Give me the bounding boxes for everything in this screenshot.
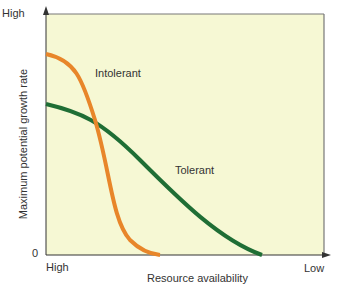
y-axis-arrow-icon: [43, 6, 49, 15]
y-axis-label: Maximum potential growth rate: [17, 59, 29, 229]
label-intolerant: Intolerant: [95, 67, 141, 79]
x-tick-low: Low: [304, 262, 324, 274]
y-tick-zero: 0: [32, 247, 38, 259]
plot-area: [46, 14, 324, 255]
x-axis-label: Resource availability: [147, 272, 248, 284]
x-tick-high: High: [46, 261, 69, 273]
y-tick-high: High: [2, 7, 25, 19]
plot-svg: [0, 0, 339, 289]
x-axis-arrow-icon: [322, 252, 331, 258]
label-tolerant: Tolerant: [175, 164, 214, 176]
chart: High 0 High Low Resource availability Ma…: [0, 0, 339, 289]
